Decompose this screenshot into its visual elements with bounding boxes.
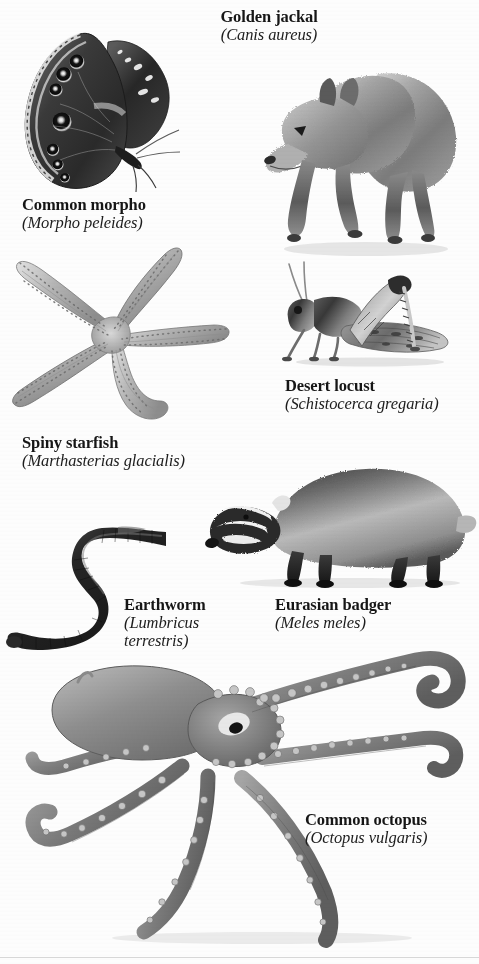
- scientific-name-spiny-starfish: (Marthasterias glacialis): [22, 452, 185, 470]
- butterfly-legs: [133, 165, 156, 192]
- figure-golden-jackal: [258, 56, 464, 258]
- golden-jackal-illustration: [258, 56, 464, 258]
- scientific-name-earthworm-line2: terrestris): [124, 632, 206, 650]
- octopus-ground-shadow: [112, 932, 412, 944]
- common-name-earthworm: Earthworm: [124, 596, 206, 614]
- scientific-name-common-octopus: (Octopus vulgaris): [305, 829, 427, 847]
- common-name-spiny-starfish: Spiny starfish: [22, 434, 185, 452]
- desert-locust-illustration: [274, 258, 466, 372]
- scientific-name-desert-locust: (Schistocerca gregaria): [285, 395, 439, 413]
- common-morpho-illustration: [16, 22, 182, 194]
- badger-eye: [243, 514, 248, 519]
- scientific-name-common-morpho: (Morpho peleides): [22, 214, 146, 232]
- bottom-rule: [0, 957, 479, 958]
- jackal-paws: [287, 230, 435, 244]
- common-name-desert-locust: Desert locust: [285, 377, 439, 395]
- common-octopus-illustration: [12, 648, 474, 948]
- scientific-name-golden-jackal: (Canis aureus): [189, 26, 349, 44]
- figure-spiny-starfish: [8, 243, 242, 429]
- locust-antennae: [289, 262, 307, 304]
- common-name-golden-jackal: Golden jackal: [189, 8, 349, 26]
- earthworm-head: [6, 636, 22, 648]
- caption-common-octopus: Common octopus (Octopus vulgaris): [305, 811, 427, 847]
- jackal-ground-shadow: [284, 242, 448, 256]
- figure-common-morpho: [16, 22, 182, 194]
- figure-eurasian-badger: [200, 455, 478, 593]
- caption-desert-locust: Desert locust (Schistocerca gregaria): [285, 377, 439, 413]
- locust-eye: [294, 306, 302, 314]
- scientific-name-eurasian-badger: (Meles meles): [275, 614, 391, 632]
- caption-spiny-starfish: Spiny starfish (Marthasterias glacialis): [22, 434, 185, 470]
- scientific-name-earthworm-line1: (Lumbricus: [124, 614, 206, 632]
- figure-common-octopus: [12, 648, 474, 948]
- octopus-arm-lower-center: [144, 776, 208, 932]
- caption-earthworm: Earthworm (Lumbricus terrestris): [124, 596, 206, 649]
- animal-plate-page: Golden jackal (Canis aureus): [0, 0, 479, 964]
- badger-tail: [456, 515, 476, 533]
- spiny-starfish-illustration: [8, 243, 242, 429]
- octopus-arm-lower-right: [242, 778, 330, 940]
- jackal-ear-left: [319, 78, 336, 106]
- caption-golden-jackal: Golden jackal (Canis aureus): [189, 8, 349, 44]
- jackal-body-group: [266, 73, 456, 192]
- figure-desert-locust: [274, 258, 466, 372]
- common-name-common-morpho: Common morpho: [22, 196, 146, 214]
- caption-eurasian-badger: Eurasian badger (Meles meles): [275, 596, 391, 632]
- eurasian-badger-illustration: [200, 455, 478, 593]
- locust-head: [288, 299, 318, 332]
- common-name-eurasian-badger: Eurasian badger: [275, 596, 391, 614]
- caption-common-morpho: Common morpho (Morpho peleides): [22, 196, 146, 232]
- common-name-common-octopus: Common octopus: [305, 811, 427, 829]
